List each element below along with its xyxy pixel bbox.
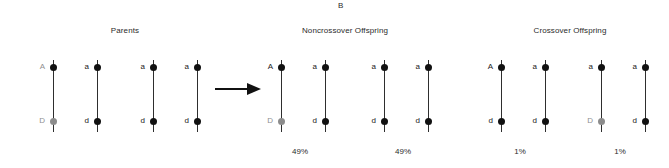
chromosome-pair-noncrossover-1: A D a d [252,58,348,158]
chromosome: a d [172,58,210,136]
locus-dot-icon [642,118,649,125]
locus-dot-icon [542,118,549,125]
locus-bottom: d [403,115,441,127]
percent-label-crossover-2: 1% [572,147,668,156]
locus-dot-icon [94,64,101,71]
allele-label: a [403,61,420,73]
locus-dot-icon [425,64,432,71]
allele-label: d [520,115,537,127]
locus-dot-icon [381,64,388,71]
locus-top: a [72,61,110,73]
allele-label: D [576,115,593,127]
chromosome: a d [300,58,338,136]
locus-top: a [172,61,210,73]
chromosome: a d [72,58,110,136]
allele-label: a [620,61,637,73]
allele-label: a [300,61,317,73]
panel-letter: B [338,1,344,10]
locus-bottom: d [620,115,658,127]
allele-label: a [520,61,537,73]
locus-bottom: d [300,115,338,127]
percent-label-noncrossover-1: 49% [252,147,348,156]
locus-bottom: D [256,115,294,127]
chromosome: A D [256,58,294,136]
chromosome: a d [520,58,558,136]
locus-dot-icon [542,64,549,71]
chromosome-pair-parent-1: A D a d [24,58,120,158]
locus-dot-icon [150,64,157,71]
allele-label: A [256,61,273,73]
heading-crossover-offspring: Crossover Offspring [500,26,640,35]
locus-dot-icon [50,64,57,71]
chromosome: A D [28,58,66,136]
locus-bottom: d [172,115,210,127]
allele-label: a [72,61,89,73]
allele-label: d [359,115,376,127]
locus-top: A [28,61,66,73]
chromosome-pair-crossover-1: A d a d [472,58,568,158]
locus-dot-icon [194,64,201,71]
allele-label: d [403,115,420,127]
locus-dot-icon [322,118,329,125]
allele-label: a [576,61,593,73]
allele-label: d [620,115,637,127]
locus-bottom: d [72,115,110,127]
heading-parents: Parents [60,26,190,35]
arrow-shaft [215,88,249,90]
chromosome: a d [620,58,658,136]
locus-top: A [476,61,514,73]
locus-dot-icon [598,118,605,125]
allele-label: a [359,61,376,73]
percent-label-crossover-1: 1% [472,147,568,156]
locus-top: a [128,61,166,73]
locus-dot-icon [50,118,57,125]
chromosome: a d [403,58,441,136]
chromosome-pair-noncrossover-2: a d a d [355,58,451,158]
locus-top: a [520,61,558,73]
allele-label: d [172,115,189,127]
locus-bottom: d [520,115,558,127]
locus-top: a [620,61,658,73]
chromosome-pair-parent-2: a d a d [124,58,220,158]
allele-label: d [72,115,89,127]
locus-dot-icon [322,64,329,71]
locus-bottom: d [359,115,397,127]
percent-label-noncrossover-2: 49% [355,147,451,156]
chromosome: A d [476,58,514,136]
allele-label: a [128,61,145,73]
allele-label: d [476,115,493,127]
allele-label: a [172,61,189,73]
chromosome: a d [128,58,166,136]
locus-bottom: d [128,115,166,127]
locus-dot-icon [498,118,505,125]
linkage-diagram-figure: B Parents Noncrossover Offspring Crossov… [0,0,669,168]
locus-dot-icon [278,64,285,71]
chromosome-pair-crossover-2: a D a d [572,58,668,158]
allele-label: A [28,61,45,73]
locus-bottom: D [28,115,66,127]
allele-label: d [128,115,145,127]
locus-dot-icon [278,118,285,125]
locus-top: a [403,61,441,73]
locus-top: A [256,61,294,73]
heading-noncrossover-offspring: Noncrossover Offspring [270,26,420,35]
locus-dot-icon [94,118,101,125]
locus-dot-icon [642,64,649,71]
locus-top: a [300,61,338,73]
allele-label: A [476,61,493,73]
locus-top: a [576,61,614,73]
chromosome: a D [576,58,614,136]
locus-dot-icon [381,118,388,125]
locus-dot-icon [425,118,432,125]
locus-dot-icon [150,118,157,125]
allele-label: D [256,115,273,127]
locus-dot-icon [498,64,505,71]
allele-label: D [28,115,45,127]
locus-bottom: D [576,115,614,127]
locus-dot-icon [194,118,201,125]
locus-bottom: d [476,115,514,127]
chromosome: a d [359,58,397,136]
locus-top: a [359,61,397,73]
locus-dot-icon [598,64,605,71]
allele-label: d [300,115,317,127]
